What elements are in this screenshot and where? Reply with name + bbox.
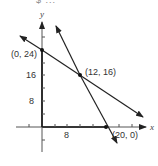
linear-system-graph: 8 x 8 16 y (0, 24) (12, 16) (20, 0) xyxy=(0,0,158,166)
label-20-0: (20, 0) xyxy=(112,130,138,140)
y-axis: 8 16 y xyxy=(26,9,45,152)
y-axis-label: y xyxy=(39,9,44,19)
point-0-24 xyxy=(40,48,44,52)
y-tick-8: 8 xyxy=(29,96,34,106)
point-12-16 xyxy=(78,73,82,77)
x-axis-label: x xyxy=(149,122,154,132)
y-tick-16: 16 xyxy=(26,70,36,80)
label-0-24: (0, 24) xyxy=(11,49,37,59)
x-tick-8: 8 xyxy=(64,130,69,140)
line-2 xyxy=(56,26,117,143)
line-1 xyxy=(20,36,143,117)
label-12-16: (12, 16) xyxy=(85,67,116,77)
point-20-0 xyxy=(104,125,108,129)
